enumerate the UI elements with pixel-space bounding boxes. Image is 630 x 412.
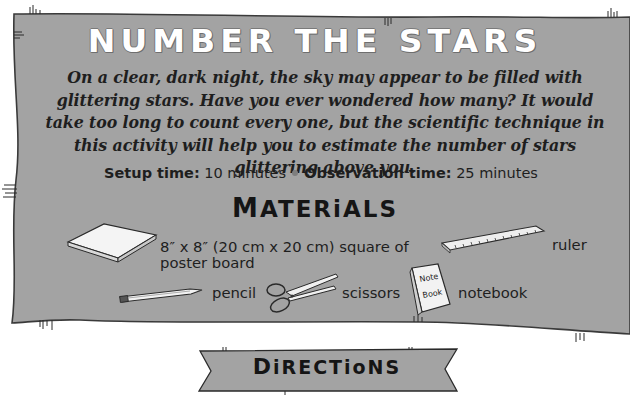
poster-board-icon (66, 222, 158, 264)
observation-time-value: 25 minutes (456, 165, 538, 181)
directions-heading-initial: D (253, 354, 273, 379)
directions-heading-rest: iRECTioNS (273, 356, 401, 378)
material-ruler-label: ruler (552, 237, 587, 253)
bullet-dot-icon (292, 170, 298, 176)
notebook-icon: Note Book (408, 262, 452, 318)
materials-heading: MATERiALS (0, 193, 630, 223)
intro-paragraph: On a clear, dark night, the sky may appe… (40, 67, 610, 180)
poster-board-label-line1: 8″ x 8″ (20 cm x 20 cm) square of (160, 239, 409, 255)
poster-board-label-line2: poster board (160, 255, 409, 271)
directions-heading: DiRECTioNS (195, 354, 459, 379)
time-info: Setup time: 10 minutesObservation time: … (0, 165, 630, 181)
material-notebook-label: notebook (458, 285, 527, 301)
setup-time-value: 10 minutes (204, 165, 286, 181)
setup-time-label: Setup time: (104, 165, 200, 181)
material-poster-board-label: 8″ x 8″ (20 cm x 20 cm) square of poster… (160, 239, 409, 271)
material-pencil-label: pencil (212, 285, 256, 301)
pencil-icon (118, 285, 204, 305)
ruler-icon (440, 223, 546, 255)
materials-heading-initial: M (232, 193, 260, 223)
materials-heading-rest: ATERiALS (260, 196, 398, 222)
scissors-icon (264, 272, 340, 316)
activity-title: NUMBER THE STARS (0, 23, 630, 60)
material-scissors-label: scissors (342, 285, 400, 301)
observation-time-label: Observation time: (304, 165, 451, 181)
